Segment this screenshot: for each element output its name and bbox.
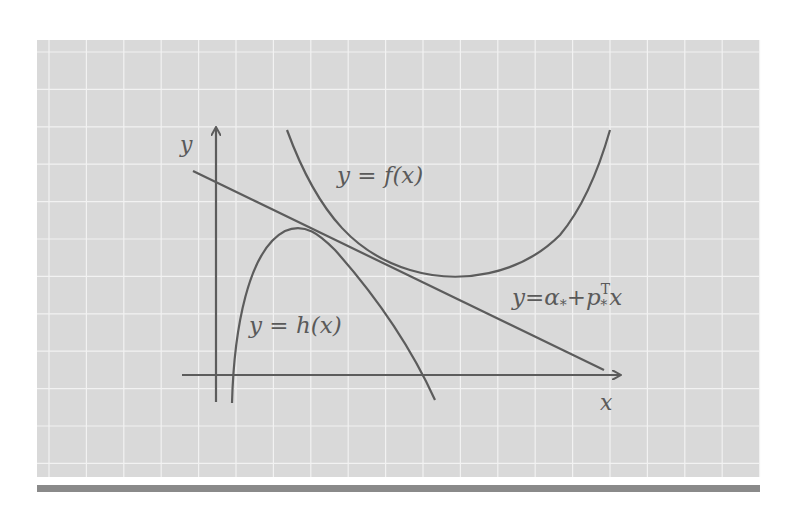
bottom-bar	[37, 485, 760, 492]
tangent-label-x: x	[609, 284, 622, 310]
tangent-label-lhs: y	[511, 284, 526, 310]
x-axis-label: x	[600, 390, 613, 415]
curve-h-label: y = h(x)	[248, 312, 342, 338]
tangent-label-eq: =	[525, 284, 544, 310]
tangent-line-label: y=α*+pT*x	[511, 281, 622, 313]
tangent-label-p-sub: *	[600, 297, 607, 313]
panel-background	[37, 40, 760, 477]
y-axis-label: y	[179, 132, 193, 157]
duality-diagram: y x y = f(x) y = h(x) y=α*+pT*x	[0, 0, 788, 516]
tangent-label-plus: +	[567, 284, 586, 310]
tangent-label-alpha: α	[544, 284, 560, 310]
curve-f-label: y = f(x)	[336, 162, 423, 188]
tangent-label-alpha-sub: *	[560, 297, 567, 313]
tangent-label-p: p	[586, 284, 601, 310]
